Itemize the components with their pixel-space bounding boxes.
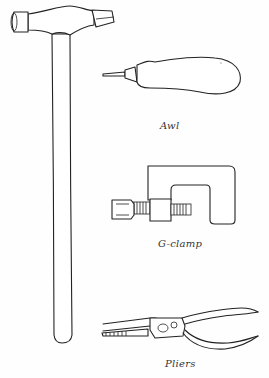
gclamp-drawing (112, 166, 235, 224)
pliers-caption: Pliers (165, 358, 196, 369)
awl-drawing (103, 57, 240, 94)
illustration-plate: Awl G-clamp Pliers (0, 0, 269, 378)
hammer-drawing (11, 6, 114, 343)
awl-caption: Awl (160, 120, 179, 131)
gclamp-caption: G-clamp (158, 238, 202, 249)
tools-illustration (0, 0, 269, 378)
pliers-drawing (102, 308, 258, 349)
